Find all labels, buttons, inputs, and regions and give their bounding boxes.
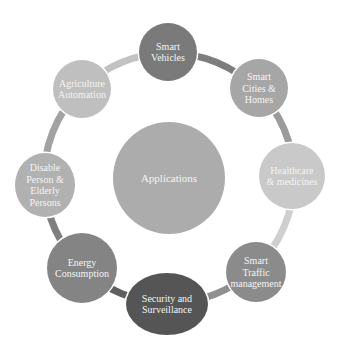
node-label: Homes	[245, 94, 273, 105]
node-smart-traffic-management: SmartTrafficmanagement	[225, 241, 288, 304]
node-smart-vehicles: SmartVehicles	[138, 22, 199, 83]
center-node-applications: Applications	[113, 122, 225, 234]
node-security-surveillance: Security andSurveillance	[125, 272, 210, 337]
node-label: Elderly	[30, 185, 59, 196]
node-label: Consumption	[55, 268, 109, 279]
node-label: Cities &	[242, 83, 276, 94]
node-label: Person &	[26, 174, 64, 185]
node-disable-elderly-persons: DisablePerson &ElderlyPersons	[14, 152, 77, 219]
diagram-canvas: Applications SmartVehiclesSmartCities &H…	[0, 0, 341, 349]
node-label: Security and	[142, 293, 192, 304]
node-label: Smart	[244, 255, 268, 266]
node-label: Surveillance	[142, 304, 193, 315]
node-label: Persons	[29, 197, 60, 208]
applications-cycle-diagram: Applications SmartVehiclesSmartCities &H…	[0, 0, 341, 349]
node-label: Automation	[58, 89, 106, 100]
node-label: Energy	[68, 257, 97, 268]
node-label: management	[230, 278, 281, 289]
node-energy-consumption: EnergyConsumption	[46, 232, 119, 305]
center-label: Applications	[141, 172, 197, 184]
node-label: Vehicles	[151, 52, 185, 63]
node-label: Traffic	[242, 267, 270, 278]
node-label: Agriculture	[59, 78, 106, 89]
node-healthcare-medicines: Healthcare& medicines	[258, 142, 327, 211]
node-label: Smart	[247, 71, 271, 82]
node-agriculture-automation: AgricultureAutomation	[52, 59, 113, 120]
node-label: Healthcare	[270, 165, 314, 176]
node-label: Smart	[156, 41, 180, 52]
node-label: & medicines	[267, 176, 318, 187]
node-label: Disable	[30, 162, 61, 173]
node-smart-cities-homes: SmartCities &Homes	[229, 58, 290, 119]
